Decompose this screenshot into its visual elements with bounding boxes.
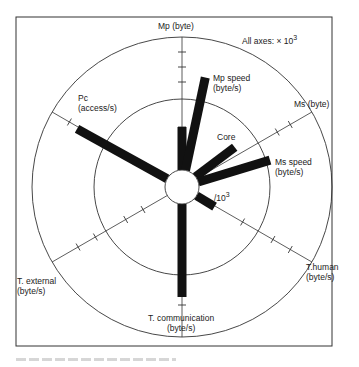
- axis-label-thuman-line1: T.human: [306, 262, 339, 272]
- bar-label-thuman-prefix: /10: [214, 193, 226, 203]
- bar-label-thuman-scale: /103: [214, 190, 230, 203]
- center-hub: [165, 170, 199, 204]
- axis-tick-thuman: [241, 219, 245, 226]
- axis-tick-ms: [288, 121, 292, 128]
- axis-label-pc: Pc (access/s): [78, 93, 117, 113]
- axis-tick-thuman: [271, 236, 275, 243]
- kiviat-diagram: All axes: × 103 Mp (byte) Ms (byte) T.hu…: [0, 0, 359, 367]
- axis-label-text-line2: (byte/s): [17, 286, 56, 296]
- axis-label-pc-line1: Pc: [78, 93, 117, 103]
- bar-label-ms-speed: Ms speed (byte/s): [275, 157, 312, 177]
- bar-pc: [77, 129, 167, 179]
- kiviat-graph: [0, 0, 359, 367]
- axis-label-thuman: T.human (byte/s): [306, 262, 339, 282]
- bar-thuman: [197, 196, 215, 207]
- axis-tick-ms: [275, 129, 279, 136]
- axis-label-pc-line2: (access/s): [78, 103, 117, 113]
- bar-label-core: Core: [217, 132, 235, 142]
- axis-label-ms: Ms (byte): [294, 99, 329, 109]
- bar-label-thuman-exp: 3: [226, 191, 230, 198]
- bar-label-ms-speed-line2: (byte/s): [275, 167, 312, 177]
- figure-caption-cropped: [16, 358, 176, 361]
- axis-tick-text: [141, 206, 145, 213]
- scale-note-exponent: 3: [293, 34, 297, 41]
- bar-mp-speed: [186, 77, 206, 170]
- axis-label-text-line1: T. external: [17, 276, 56, 286]
- bar-label-mp-speed-line2: (byte/s): [213, 83, 250, 93]
- axis-tick-text: [93, 234, 97, 241]
- axis-tick-text: [76, 244, 80, 251]
- axis-label-mp: Mp (byte): [158, 21, 194, 31]
- bar-label-mp-speed: Mp speed (byte/s): [213, 73, 250, 93]
- axis-label-text: T. external (byte/s): [17, 276, 56, 296]
- axis-text: [52, 196, 167, 263]
- bar-label-mp-speed-line1: Mp speed: [213, 73, 250, 83]
- bar-label-ms-speed-line1: Ms speed: [275, 157, 312, 167]
- axis-label-tcomm-line1: T. communication: [148, 313, 214, 323]
- axis-label-tcomm-line2: (byte/s): [148, 323, 214, 333]
- axis-tick-thuman: [288, 246, 292, 253]
- scale-note-text: All axes: × 10: [242, 36, 293, 46]
- axis-label-tcomm: T. communication (byte/s): [148, 313, 214, 333]
- axis-label-thuman-line2: (byte/s): [306, 272, 339, 282]
- axis-tick-pc: [67, 119, 71, 126]
- scale-note: All axes: × 103: [242, 33, 297, 46]
- axis-tick-text: [124, 216, 128, 223]
